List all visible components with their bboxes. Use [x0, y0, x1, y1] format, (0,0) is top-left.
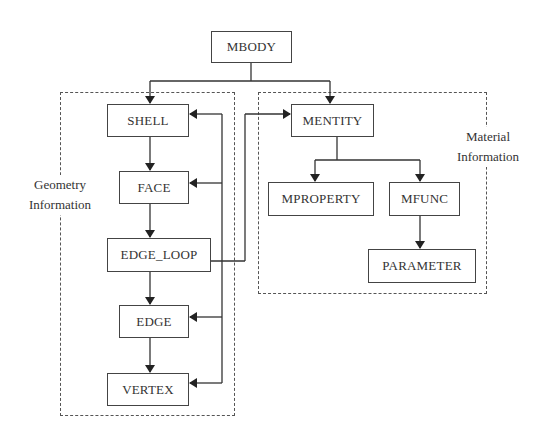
- node-edge: EDGE: [119, 305, 189, 338]
- node-edge-loop: EDGE_LOOP: [107, 238, 211, 272]
- node-mentity: MENTITY: [291, 104, 374, 137]
- node-parameter: PARAMETER: [368, 249, 476, 283]
- node-face: FACE: [119, 171, 189, 204]
- node-mfunc: MFUNC: [389, 182, 460, 216]
- connector-lines: [0, 0, 543, 440]
- material-label-line1: Material: [448, 127, 528, 147]
- node-vertex: VERTEX: [107, 373, 189, 406]
- node-mbody: MBODY: [211, 31, 292, 63]
- material-label-line2: Information: [448, 147, 528, 167]
- node-shell: SHELL: [107, 104, 189, 137]
- material-label: Material Information: [448, 127, 528, 167]
- geometry-label: Geometry Information: [20, 175, 100, 215]
- geometry-label-line2: Information: [20, 195, 100, 215]
- node-mproperty: MPROPERTY: [268, 182, 374, 216]
- geometry-label-line1: Geometry: [20, 175, 100, 195]
